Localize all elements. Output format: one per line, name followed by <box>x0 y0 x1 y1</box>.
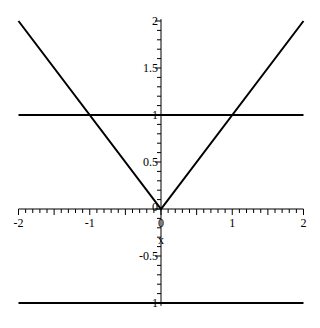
y-tick-label: -1 <box>148 296 158 310</box>
x-tick-label: -2 <box>14 216 24 230</box>
x-tick-label: 0 <box>158 216 164 230</box>
axes <box>19 19 304 306</box>
y-tick-label: 0 <box>152 200 158 214</box>
plot-area: -2-1012-1-0.500.511.52x <box>0 0 320 328</box>
x-axis-label: x <box>158 233 164 247</box>
x-tick-label: -1 <box>85 216 95 230</box>
y-tick-label: 1 <box>152 108 158 122</box>
y-tick-label: 1.5 <box>143 61 158 75</box>
y-tick-label: 0.5 <box>143 155 158 169</box>
x-tick-label: 2 <box>301 216 307 230</box>
y-tick-label: -0.5 <box>139 249 158 263</box>
x-tick-label: 1 <box>229 216 235 230</box>
y-tick-label: 2 <box>152 14 158 28</box>
